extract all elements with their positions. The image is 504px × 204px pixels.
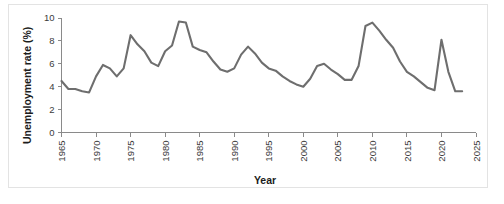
- x-axis-title: Year: [254, 174, 276, 186]
- x-tick-label: 2010: [367, 141, 378, 162]
- chart-figure: Unemployment rate (%) Year 0246810 19651…: [0, 0, 504, 204]
- x-tick-label: 1990: [229, 141, 240, 162]
- x-tick-label: 1980: [160, 141, 171, 162]
- y-tick-label: 6: [49, 58, 54, 69]
- x-tick-label: 1985: [194, 141, 205, 162]
- y-tick-label: 2: [49, 104, 54, 115]
- x-tick-label: 2015: [402, 141, 413, 162]
- x-tick-group: 1965197019751980198519901995200020052010…: [56, 133, 482, 162]
- x-tick-label: 1995: [263, 141, 274, 162]
- line-chart-plot: Unemployment rate (%) Year 0246810 19651…: [0, 0, 504, 204]
- data-series-group: [62, 21, 463, 92]
- y-axis-title: Unemployment rate (%): [21, 27, 33, 144]
- y-tick-label: 8: [49, 35, 54, 46]
- y-tick-label: 0: [49, 127, 54, 138]
- x-tick-label: 2020: [436, 141, 447, 162]
- x-tick-label: 1970: [91, 141, 102, 162]
- y-tick-label: 10: [44, 12, 55, 23]
- x-tick-label: 2025: [471, 141, 482, 162]
- y-tick-label: 4: [49, 81, 54, 92]
- y-tick-group: 0246810: [44, 12, 62, 137]
- x-tick-label: 1965: [56, 141, 67, 162]
- x-tick-label: 2000: [298, 141, 309, 162]
- data-line-unemployment-rate: [62, 21, 463, 92]
- x-tick-label: 2005: [332, 141, 343, 162]
- x-tick-label: 1975: [125, 141, 136, 162]
